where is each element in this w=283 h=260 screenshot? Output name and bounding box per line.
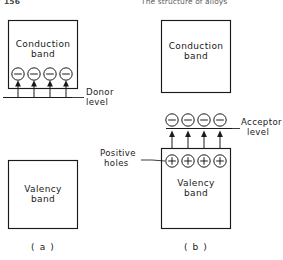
panel-a-valency-band-label-line2: band [31,194,55,204]
panel-a-valency-band-label-line1: Valency [24,184,62,194]
panel-a-conduction-band-label-line2: band [31,49,55,59]
panel-b-electron-3 [198,114,210,126]
panel-a-conduction-band-label-line1: Conduction [16,39,71,49]
panel-b-caption: ( b ) [184,242,208,252]
band-structure-figure: Conduction band [0,0,283,260]
panel-b-hole-3 [198,155,210,167]
figure-page: 156 The structure of alloys Conduction b… [0,0,283,260]
panel-b-hole-4 [214,155,226,167]
panel-b-transition-arrow-3 [201,131,207,149]
panel-b-positive-holes-label-line1: Positive [100,148,136,158]
panel-b: Conduction band Accept [100,21,282,253]
panel-b-valency-band-label-line1: Valency [177,178,215,188]
panel-b-conduction-band-label-line2: band [184,51,208,61]
panel-b-hole-2 [182,155,194,167]
panel-a-donor-level-label-line2: level [86,97,108,107]
panel-a-donor-level-label-line1: Donor [86,87,114,97]
panel-b-electron-4 [214,114,226,126]
panel-a-electron-1 [12,68,24,80]
panel-a-electron-4 [60,68,72,80]
panel-b-conduction-band-label-line1: Conduction [169,41,224,51]
panel-b-transition-arrow-1 [169,131,175,149]
panel-b-positive-holes-label-line2: holes [104,158,129,168]
panel-a-electron-3 [44,68,56,80]
panel-b-hole-1 [166,155,178,167]
panel-b-transition-arrow-4 [217,131,223,149]
panel-a-electron-2 [28,68,40,80]
panel-b-acceptor-level-label-line1: Acceptor [241,117,282,127]
panel-b-electron-2 [182,114,194,126]
panel-b-acceptor-level-label-line2: level [247,127,269,137]
panel-b-valency-band-label-line2: band [184,188,208,198]
panel-b-electron-1 [166,114,178,126]
panel-a: Conduction band [3,21,114,253]
panel-a-caption: ( a ) [31,242,55,252]
panel-b-transition-arrow-2 [185,131,191,149]
